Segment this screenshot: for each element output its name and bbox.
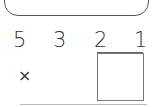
rounded-header-box xyxy=(4,0,149,16)
digit-hundreds: 3 xyxy=(53,28,66,52)
result-divider-line xyxy=(20,104,147,105)
answer-input-box[interactable] xyxy=(97,53,144,101)
multiply-sign: × xyxy=(18,66,31,85)
digit-thousands: 5 xyxy=(13,28,26,52)
digit-tens: 2 xyxy=(94,28,107,52)
digit-ones: 1 xyxy=(134,28,147,52)
